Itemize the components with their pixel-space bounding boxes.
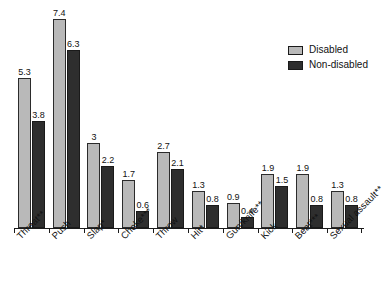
bar-value-label: 1.9 bbox=[297, 164, 310, 173]
bar-disabled: 1.3 bbox=[192, 6, 205, 228]
bar-group: 5.33.8 bbox=[14, 6, 49, 228]
bar-value-label: 1.3 bbox=[192, 181, 205, 190]
bar-value-label: 1.7 bbox=[123, 170, 136, 179]
bar-disabled: 1.9 bbox=[261, 6, 274, 228]
bar-group: 7.46.3 bbox=[49, 6, 84, 228]
bar-non-disabled: 3.8 bbox=[32, 6, 45, 228]
legend-swatch-non-disabled bbox=[288, 61, 303, 70]
bar-disabled: 1.9 bbox=[296, 6, 309, 228]
bar-value-label: 2.1 bbox=[171, 159, 184, 168]
bar-group: 32.2 bbox=[84, 6, 119, 228]
bar-non-disabled: 2.2 bbox=[101, 6, 114, 228]
bar-non-disabled: 1.5 bbox=[275, 6, 288, 228]
bar-rect bbox=[275, 186, 288, 228]
plot-area: 5.33.87.46.332.21.70.62.72.11.30.80.90.4… bbox=[14, 6, 362, 228]
bar-non-disabled: 0.8 bbox=[345, 6, 358, 228]
bar-disabled: 0.9 bbox=[227, 6, 240, 228]
legend-label-non-disabled: Non-disabled bbox=[309, 60, 368, 70]
bar-value-label: 1.9 bbox=[262, 164, 275, 173]
bar-value-label: 6.3 bbox=[67, 40, 80, 49]
bar-rect bbox=[67, 50, 80, 228]
bar-value-label: 7.4 bbox=[53, 9, 66, 18]
bar-value-label: 0.9 bbox=[227, 193, 240, 202]
bar-value-label: 0.8 bbox=[311, 195, 324, 204]
bar-group: 1.70.6 bbox=[118, 6, 153, 228]
bar-non-disabled: 0.4 bbox=[241, 6, 254, 228]
x-axis-labels: Threat**PushSlap*Choke***ThrowHit*Gun/kn… bbox=[14, 234, 362, 298]
bar-group: 1.30.8 bbox=[188, 6, 223, 228]
bar-group: 1.90.8 bbox=[292, 6, 327, 228]
bar-value-label: 3.8 bbox=[32, 111, 45, 120]
bar-value-label: 5.3 bbox=[18, 68, 31, 77]
bar-rect bbox=[206, 205, 219, 228]
bar-disabled: 1.3 bbox=[331, 6, 344, 228]
bar-non-disabled: 0.8 bbox=[206, 6, 219, 228]
bar-rect bbox=[261, 174, 274, 228]
bar-non-disabled: 2.1 bbox=[171, 6, 184, 228]
bar-non-disabled: 6.3 bbox=[67, 6, 80, 228]
legend-item-disabled: Disabled bbox=[288, 44, 368, 56]
bar-value-label: 2.7 bbox=[157, 142, 170, 151]
bar-disabled: 7.4 bbox=[53, 6, 66, 228]
bar-non-disabled: 0.6 bbox=[136, 6, 149, 228]
bar-value-label: 1.3 bbox=[331, 181, 344, 190]
bar-value-label: 0.8 bbox=[206, 195, 219, 204]
bar-value-label: 2.2 bbox=[102, 156, 115, 165]
bar-rect bbox=[87, 143, 100, 228]
bar-group: 1.91.5 bbox=[258, 6, 293, 228]
legend-swatch-disabled bbox=[288, 46, 303, 55]
legend-label-disabled: Disabled bbox=[309, 45, 348, 55]
bar-group: 2.72.1 bbox=[153, 6, 188, 228]
bar-value-label: 1.5 bbox=[276, 176, 289, 185]
bar-disabled: 1.7 bbox=[122, 6, 135, 228]
bar-rect bbox=[18, 78, 31, 228]
bar-disabled: 2.7 bbox=[157, 6, 170, 228]
bar-value-label: 3 bbox=[91, 133, 96, 142]
bar-rect bbox=[53, 19, 66, 228]
chart-legend: Disabled Non-disabled bbox=[288, 44, 368, 71]
bar-non-disabled: 0.8 bbox=[310, 6, 323, 228]
bar-group: 1.30.8 bbox=[327, 6, 362, 228]
bar-group: 0.90.4 bbox=[223, 6, 258, 228]
legend-item-non-disabled: Non-disabled bbox=[288, 59, 368, 71]
bar-disabled: 3 bbox=[87, 6, 100, 228]
bar-disabled: 5.3 bbox=[18, 6, 31, 228]
x-axis-tick bbox=[361, 229, 362, 233]
